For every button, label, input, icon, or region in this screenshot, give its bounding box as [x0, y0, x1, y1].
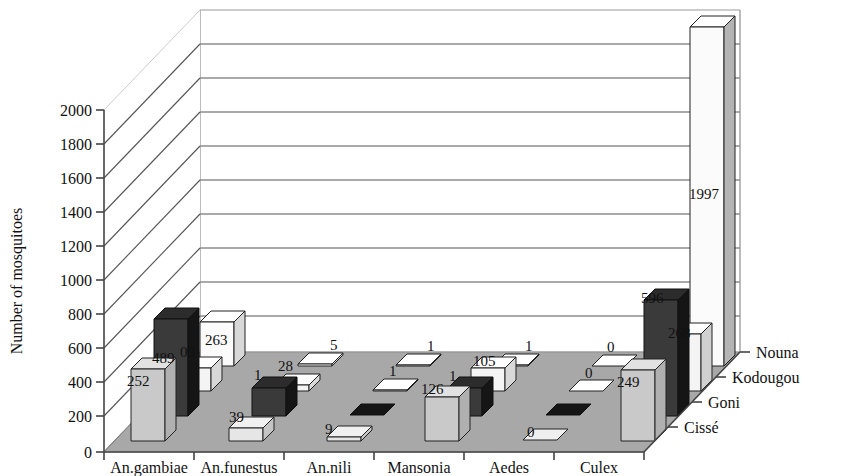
value-label-goni-an-gambiae: 489	[152, 350, 175, 366]
value-label-cisse-mansonia: 126	[421, 381, 444, 397]
value-label-nouna-an-gambiae: 263	[205, 332, 228, 348]
x-axis: An.gambiae An.funestus An.nili Mansonia …	[104, 452, 644, 476]
bar-cisse-an-gambiae[interactable]	[131, 358, 176, 441]
y-tick-1200: 1200	[60, 238, 92, 255]
y-tick-400: 400	[68, 374, 92, 391]
x-category-culex: Culex	[580, 459, 618, 476]
y-tick-1000: 1000	[60, 272, 92, 289]
y-tick-0: 0	[84, 444, 92, 461]
value-label-nouna-culex: 1997	[689, 186, 720, 202]
y-tick-600: 600	[68, 340, 92, 357]
value-label-kodougou-mansonia: 105	[473, 353, 496, 369]
y-tick-1800: 1800	[60, 136, 92, 153]
value-label-nouna-aedes: 0	[607, 339, 615, 355]
bar-cisse-culex[interactable]	[621, 359, 666, 441]
value-label-cisse-aedes: 0	[527, 424, 535, 440]
value-label-goni-culex: 596	[641, 290, 664, 306]
series-label-cisse: Cissé	[684, 419, 719, 436]
value-label-kodougou-an-funestus: 28	[278, 358, 293, 374]
value-label-cisse-an-funestus: 39	[229, 409, 244, 425]
y-tick-200: 200	[68, 408, 92, 425]
bar-chart-3d: 2000 1800 1600 1400 1200 1000 800 600 40…	[0, 0, 854, 476]
value-label-nouna-an-funestus: 5	[330, 337, 338, 353]
value-label-nouna-mansonia: 1	[525, 338, 533, 354]
x-category-an-funestus: An.funestus	[201, 459, 278, 476]
value-label-kodougou-an-gambiae: 09	[180, 344, 195, 360]
y-axis-title: Number of mosquitoes	[8, 208, 26, 355]
value-label-goni-an-funestus: 1	[254, 367, 262, 383]
value-label-cisse-an-nili: 9	[325, 421, 333, 437]
y-tick-1600: 1600	[60, 170, 92, 187]
value-label-kodougou-aedes: 0	[585, 365, 593, 381]
value-label-goni-mansonia: 1	[449, 368, 457, 384]
value-label-kodougou-culex: 268	[668, 325, 691, 341]
series-label-kodougou: Kodougou	[732, 369, 800, 387]
value-label-kodougou-an-nili: 1	[389, 363, 397, 379]
value-label-nouna-an-nili: 1	[427, 338, 435, 354]
series-label-goni: Goni	[708, 394, 741, 411]
value-label-cisse-an-gambiae: 252	[127, 373, 150, 389]
x-category-mansonia: Mansonia	[387, 459, 450, 476]
value-label-cisse-culex: 249	[617, 374, 640, 390]
y-tick-2000: 2000	[60, 102, 92, 119]
chart-container: 2000 1800 1600 1400 1200 1000 800 600 40…	[0, 0, 854, 476]
x-category-an-nili: An.nili	[307, 459, 352, 476]
y-axis: 2000 1800 1600 1400 1200 1000 800 600 40…	[8, 102, 104, 461]
x-category-an-gambiae: An.gambiae	[110, 459, 188, 476]
series-label-nouna: Nouna	[756, 344, 799, 361]
x-category-aedes: Aedes	[489, 459, 529, 476]
y-tick-1400: 1400	[60, 204, 92, 221]
y-tick-800: 800	[68, 306, 92, 323]
